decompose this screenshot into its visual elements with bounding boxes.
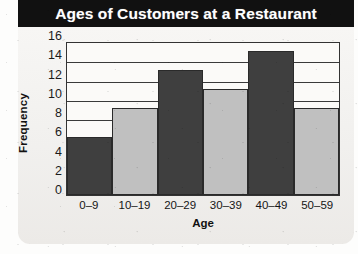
x-tick-label: 10–19: [112, 199, 158, 211]
bar-fill: [112, 108, 157, 195]
bar-fill: [248, 51, 293, 195]
x-axis-tick-labels: 0–910–1920–2930–3940–4950–59: [66, 199, 340, 211]
bar-series: [67, 43, 339, 195]
x-tick-label: 50–59: [294, 199, 340, 211]
y-axis-title-label: Frequency: [17, 93, 29, 153]
x-tick-label: 40–49: [249, 199, 295, 211]
y-tick-label: 12: [38, 68, 62, 81]
y-tick-label: 10: [38, 88, 62, 101]
x-tick-label: 0–9: [66, 199, 112, 211]
bar-fill: [294, 108, 339, 195]
y-tick-label: 2: [38, 165, 62, 178]
x-tick-label: 30–39: [203, 199, 249, 211]
bar-chart: Frequency 1614121086420 0–910–1920–2930–…: [0, 0, 358, 254]
plot-area: [66, 42, 340, 196]
y-tick-label: 6: [38, 126, 62, 139]
y-tick-label: 0: [38, 184, 62, 197]
y-axis-title: Frequency: [16, 78, 30, 168]
chart-page: Ages of Customers at a Restaurant Freque…: [0, 0, 358, 254]
y-tick-label: 8: [38, 107, 62, 120]
bar-fill: [67, 137, 112, 195]
y-tick-label: 4: [38, 145, 62, 158]
y-tick-label: 16: [38, 30, 62, 43]
bar-fill: [158, 70, 203, 195]
y-axis-tick-labels: 1614121086420: [38, 36, 62, 202]
x-tick-label: 20–29: [157, 199, 203, 211]
x-axis-title: Age: [66, 217, 340, 229]
y-tick-label: 14: [38, 49, 62, 62]
bar-fill: [203, 89, 248, 195]
